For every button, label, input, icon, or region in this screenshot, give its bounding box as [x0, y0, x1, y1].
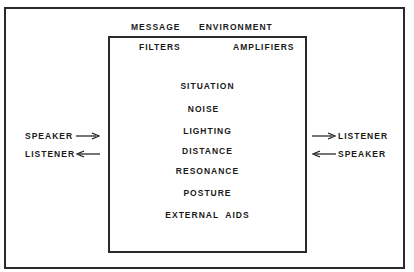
environment-box — [108, 36, 307, 253]
left-listener-label: LISTENER — [25, 149, 75, 159]
amplifiers-label: AMPLIFIERS — [233, 42, 294, 52]
right-speaker-label: SPEAKER — [338, 149, 386, 159]
right-arrow-icon — [76, 131, 100, 141]
right-arrow-icon — [312, 131, 336, 141]
factor-lighting: LIGHTING — [108, 126, 307, 136]
factor-external-aids: EXTERNAL AIDS — [108, 210, 307, 220]
left-arrow-icon — [312, 149, 336, 159]
filters-label: FILTERS — [139, 42, 181, 52]
factor-resonance: RESONANCE — [108, 166, 307, 176]
factor-distance: DISTANCE — [108, 146, 307, 156]
left-speaker-label: SPEAKER — [25, 131, 73, 141]
factor-situation: SITUATION — [108, 81, 307, 91]
environment-label: ENVIRONMENT — [199, 22, 273, 32]
message-label: MESSAGE — [131, 22, 181, 32]
right-listener-label: LISTENER — [338, 131, 388, 141]
factor-posture: POSTURE — [108, 188, 307, 198]
factor-noise: NOISE — [104, 104, 303, 114]
left-arrow-icon — [76, 149, 100, 159]
